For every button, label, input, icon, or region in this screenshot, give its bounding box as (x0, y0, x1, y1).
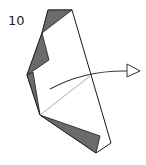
origami-diagram (0, 0, 146, 165)
arrowhead-icon (127, 64, 140, 77)
